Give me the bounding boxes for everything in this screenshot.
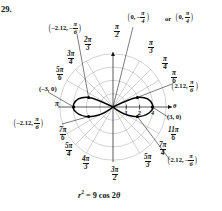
axis-tick-2: 2 [138, 110, 141, 116]
equation-label: r2 = 9 cos 2θ [78, 190, 120, 200]
angle-label-pi: π [55, 101, 59, 108]
axis-tick-4: 4 [151, 110, 154, 116]
angle-label-five-pi-over-3: 5π3 [143, 154, 153, 169]
axis-label-theta: θ [173, 103, 176, 109]
angle-label-pi-over-3: π3 [148, 40, 154, 55]
point-label-top-left: (–2.12, –π6) [48, 21, 82, 35]
point-label-left-mid: (–2.12, π6) [13, 116, 43, 130]
angle-label-five-pi-over-6: 5π6 [55, 67, 65, 82]
angle-label-five-pi-over-4: 5π4 [64, 143, 74, 158]
angle-label-pi-over-6: π6 [171, 70, 177, 85]
angle-label-two-pi-over-3: 2π3 [83, 37, 93, 52]
point-label-top-center-a: (0, –π4) [127, 10, 149, 24]
point-label-or: or [165, 16, 171, 23]
angle-label-eleven-pi-over-6: 11π6 [167, 127, 180, 142]
point-label-bottom-right: (2.12, –π6) [167, 153, 197, 167]
axis-tick-1: 1 [125, 110, 128, 116]
point-label-top-center-b: (0, π4) [175, 10, 194, 24]
angle-label-seven-pi-over-4: 7π4 [158, 142, 168, 157]
point-label-neg-three: (–3, 0) [39, 86, 57, 93]
point-label-pos-three: (3, 0) [167, 114, 181, 121]
angle-label-pi-over-4: π4 [162, 56, 168, 71]
angle-label-pi-over-2: π2 [114, 24, 120, 39]
problem-number: 29. [1, 5, 12, 14]
angle-label-three-pi-over-4: 3π4 [66, 51, 76, 66]
angle-label-three-pi-over-2: 3π2 [110, 167, 120, 182]
angle-label-four-pi-over-3: 4π3 [81, 156, 91, 171]
angle-label-seven-pi-over-6: 7π6 [58, 127, 68, 142]
